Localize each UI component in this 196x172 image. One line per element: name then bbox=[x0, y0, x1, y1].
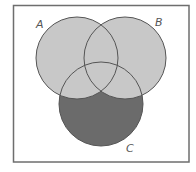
set-b-label: B bbox=[155, 16, 163, 29]
set-a-label: A bbox=[35, 18, 44, 31]
set-c-label: C bbox=[126, 142, 134, 155]
venn-diagram: A B C bbox=[0, 0, 196, 172]
